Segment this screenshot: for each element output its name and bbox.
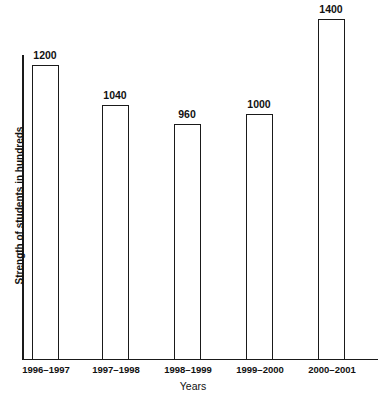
x-tick-label: 1999–2000 bbox=[220, 364, 300, 375]
bar bbox=[318, 19, 345, 359]
bar-value-label: 1040 bbox=[85, 89, 145, 101]
y-axis-title: Strength of students in hundreds bbox=[14, 91, 25, 321]
x-tick-label: 1996–1997 bbox=[6, 364, 86, 375]
x-tick-label: 1998–1999 bbox=[148, 364, 228, 375]
bar bbox=[246, 114, 273, 359]
x-tick-label: 1997–1998 bbox=[76, 364, 156, 375]
bar-value-label: 1000 bbox=[229, 98, 289, 110]
plot-area: 1200104096010001400 1996–19971997–199819… bbox=[0, 0, 386, 403]
bar-value-label: 960 bbox=[157, 108, 217, 120]
bar bbox=[102, 105, 129, 359]
bar-value-label: 1400 bbox=[301, 3, 361, 15]
bar-chart-figure: 1200104096010001400 1996–19971997–199819… bbox=[0, 0, 386, 403]
bar-value-label: 1200 bbox=[15, 49, 75, 61]
bar bbox=[174, 124, 201, 359]
bar bbox=[32, 65, 59, 359]
x-tick-label: 2000–2001 bbox=[292, 364, 372, 375]
x-axis-title: Years bbox=[0, 380, 386, 392]
